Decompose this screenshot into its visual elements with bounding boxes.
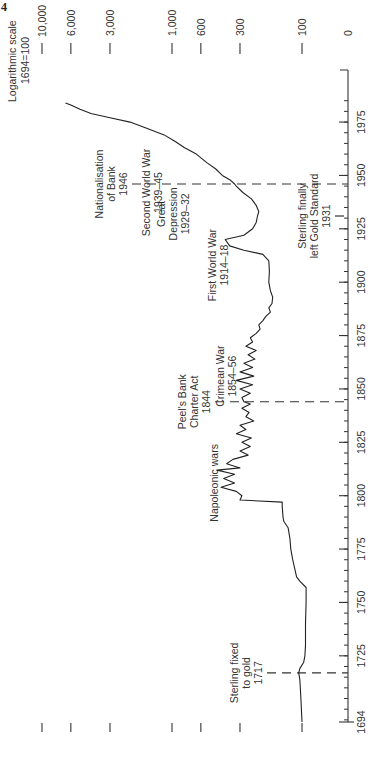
price-index-chart: 4 Logarithmic scale 1694=100 01003006001… <box>0 0 385 763</box>
annotation-label: 1844 <box>200 390 212 414</box>
scale-note-line1: Logarithmic scale <box>6 20 18 102</box>
year-tick-label: 1775 <box>355 537 367 561</box>
scale-note-line2: 1694=100 <box>19 37 31 84</box>
annotation-label: 1929–32 <box>179 193 191 234</box>
annotation-label: Napoleonic wars <box>208 444 220 522</box>
annotation-label: Charter Act <box>188 375 200 428</box>
annotation-label: 1914–18 <box>218 245 230 286</box>
year-tick-label: 1750 <box>355 591 367 615</box>
year-tick-label: 1694 <box>355 710 367 734</box>
page-marker: 4 <box>1 0 7 14</box>
year-tick-label: 1950 <box>355 164 367 188</box>
annotation-label: Second World War <box>140 148 152 236</box>
year-tick-label: 1875 <box>355 324 367 348</box>
year-tick-label: 1925 <box>355 217 367 241</box>
value-tick-label: 1,000 <box>166 10 178 36</box>
year-tick-label: 1900 <box>355 270 367 294</box>
value-tick-label: 600 <box>195 18 207 36</box>
value-tick-label: 300 <box>234 18 246 36</box>
annotation-label: 1946 <box>117 172 129 196</box>
annotation-label: of Bank <box>105 165 117 201</box>
annotation-label: First World War <box>206 228 218 301</box>
annotation-label: Sterling fixed <box>228 642 240 703</box>
annotation-label: Crimean War <box>214 345 226 407</box>
annotation-label: Sterling finally <box>296 183 308 249</box>
annotation-label: Nationalisation <box>93 149 105 218</box>
annotation-label: Peel's Bank <box>176 373 188 429</box>
scale-note: Logarithmic scale 1694=100 <box>6 20 31 102</box>
annotation-label: to gold <box>240 657 252 689</box>
annotation-label: left Gold Standard <box>308 174 320 259</box>
year-tick-label: 1800 <box>355 484 367 508</box>
year-tick-label: 1850 <box>355 377 367 401</box>
value-tick-label: 100 <box>296 18 308 36</box>
annotation-label: Depression <box>167 187 179 240</box>
year-tick-label: 1725 <box>355 644 367 668</box>
year-tick-label: 1975 <box>355 110 367 134</box>
annotation-label: 1931 <box>320 204 332 228</box>
value-axis: 01003006001,0003,0006,00010,000 <box>36 5 354 732</box>
annotation-label: 1717 <box>252 661 264 685</box>
value-tick-label: 0 <box>342 30 354 36</box>
value-tick-label: 6,000 <box>65 10 77 36</box>
annotations: Sterling fixedto gold1717Napoleonic wars… <box>93 148 348 703</box>
value-tick-label: 3,000 <box>104 10 116 36</box>
annotation-label: 1939–45 <box>152 172 164 213</box>
value-tick-label: 10,000 <box>36 5 48 37</box>
year-tick-label: 1825 <box>355 430 367 454</box>
annotation-label: 1854–56 <box>226 356 238 397</box>
